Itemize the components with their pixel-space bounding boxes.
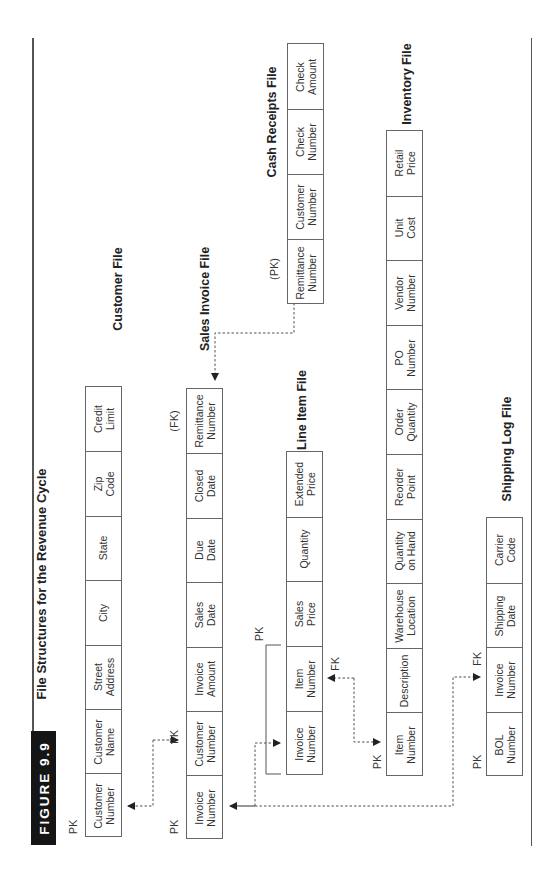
field-unit-cost: Unit Cost xyxy=(387,196,422,261)
field-closed-date: Closed Date xyxy=(187,453,222,517)
field-reorder-point: Reorder Point xyxy=(387,454,422,519)
field-quantity: Quantity xyxy=(287,517,322,582)
field-customer-name: Customer Name xyxy=(86,709,121,773)
sales-invoice-file-record: Remittance Number Closed Date Due Date S… xyxy=(186,388,223,839)
field-vendor-number: Vendor Number xyxy=(387,260,422,325)
field-carrier-code: Carrier Code xyxy=(487,518,522,583)
shipping-log-file-label: Shipping Log File xyxy=(498,389,516,509)
field-street-address: Street Address xyxy=(86,645,121,709)
field-customer-number: Customer Number xyxy=(187,711,222,775)
field-shipping-date: Shipping Date xyxy=(487,583,522,648)
field-check-amount: Check Amount xyxy=(288,44,323,109)
shipping-log-pk-label: PK xyxy=(471,752,485,772)
field-invoice-number: Invoice Number xyxy=(187,775,222,840)
sales-invoice-pk-label: PK xyxy=(168,817,182,837)
field-invoice-amount: Invoice Amount xyxy=(187,647,222,711)
line-item-file-record: Extended Price Quantity Sales Price Item… xyxy=(286,451,323,775)
field-warehouse-location: Warehouse Location xyxy=(387,583,422,648)
field-bol-number: BOL Number xyxy=(487,712,522,777)
field-description: Description xyxy=(387,648,422,713)
field-remittance-number: Remittance Number xyxy=(288,239,323,305)
field-sales-price: Sales Price xyxy=(287,581,322,646)
inventory-file-label: Inventory File xyxy=(398,34,416,134)
field-remittance-number: Remittance Number xyxy=(187,389,222,453)
line-item-file-label: Line Item File xyxy=(293,355,311,465)
field-extended-price: Extended Price xyxy=(287,452,322,517)
field-item-number: Item Number xyxy=(387,712,422,777)
field-quantity-on-hand: Quantity on Hand xyxy=(387,519,422,584)
field-zip-code: Zip Code xyxy=(86,451,121,515)
customer-file-label: Customer File xyxy=(109,234,127,344)
sales-invoice-remittance-fk-label: (FK) xyxy=(168,406,182,436)
field-state: State xyxy=(86,516,121,580)
field-invoice-number: Invoice Number xyxy=(287,711,322,776)
field-item-number: Item Number xyxy=(287,646,322,711)
field-city: City xyxy=(86,580,121,644)
sales-invoice-file-label: Sales Invoice File xyxy=(196,234,214,364)
field-due-date: Due Date xyxy=(187,518,222,582)
inventory-pk-label: PK xyxy=(371,752,385,772)
cash-receipts-file-label: Cash Receipts File xyxy=(263,57,281,187)
line-item-fk-label: FK xyxy=(329,654,343,674)
customer-file-record: Credit Limit Zip Code State City Street … xyxy=(85,386,122,837)
field-order-quantity: Order Quantity xyxy=(387,389,422,454)
field-sales-date: Sales Date xyxy=(187,582,222,646)
field-credit-limit: Credit Limit xyxy=(86,387,121,451)
field-check-number: Check Number xyxy=(288,109,323,174)
cash-receipts-pk-label: (PK) xyxy=(268,254,282,284)
shipping-log-file-record: Carrier Code Shipping Date Invoice Numbe… xyxy=(486,517,523,776)
field-customer-number: Customer Number xyxy=(288,174,323,239)
shipping-log-fk-label: FK xyxy=(471,649,485,669)
cash-receipts-file-record: Check Amount Check Number Customer Numbe… xyxy=(287,43,324,304)
field-customer-number: Customer Number xyxy=(86,773,121,838)
field-retail-price: Retail Price xyxy=(387,131,422,196)
inventory-file-record: Retail Price Unit Cost Vendor Number PO … xyxy=(386,130,423,776)
field-invoice-number: Invoice Number xyxy=(487,647,522,712)
field-po-number: PO Number xyxy=(387,325,422,390)
sales-invoice-fk-label: FK xyxy=(168,727,182,747)
line-item-pk-label: PK xyxy=(253,624,267,644)
customer-pk-label: PK xyxy=(67,817,81,837)
